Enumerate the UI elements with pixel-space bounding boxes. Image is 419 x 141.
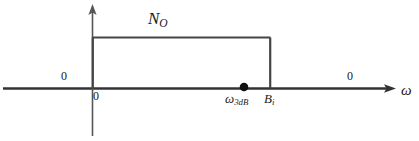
bandwidth-label: Bi xyxy=(264,92,274,107)
omega-3db-label: ω3dB xyxy=(225,92,248,107)
amplitude-label-subscript: O xyxy=(159,17,167,30)
omega-3db-marker-dot xyxy=(240,83,249,92)
omega-axis xyxy=(3,84,396,93)
omega-3db-subscript: 3dB xyxy=(234,97,248,107)
bandwidth-subscript: i xyxy=(272,97,274,107)
amplitude-label: NO xyxy=(148,10,168,30)
noise-psd-figure: NO 0 0 0 ω ω3dB Bi xyxy=(0,0,419,141)
omega-axis-label: ω xyxy=(401,83,412,98)
zero-label-left: 0 xyxy=(61,70,67,82)
amplitude-label-symbol: N xyxy=(148,9,159,28)
zero-label-right: 0 xyxy=(347,70,353,82)
omega-3db-symbol: ω xyxy=(225,91,234,106)
origin-label: 0 xyxy=(93,90,99,102)
bandwidth-symbol: B xyxy=(264,91,272,106)
spectrum-rectangle xyxy=(93,38,271,89)
